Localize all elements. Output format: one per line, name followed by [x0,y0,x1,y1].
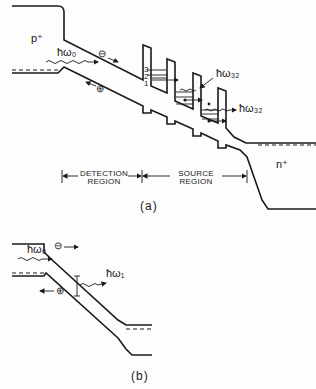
photon-hw32-label: ħω₃₂ [216,68,239,79]
level-1-label: 1 [144,80,149,88]
valence-band-a [12,67,316,209]
photon-hw0-label: ħω₀ [57,47,76,58]
hole-symbol: ⊕ [96,84,104,94]
source-region-label: SOURCE REGION [172,170,220,186]
band-diagram-figure: p⁺ ħω₀ ⊖ ⊕ 3 2 1 ħω₃₂ ħω₃₂ n⁺ DETECTION … [0,0,316,389]
caption-a: (a) [140,200,158,212]
conduction-band-a [12,6,316,143]
caption-b: (b) [131,370,149,382]
electron-arrow-a [108,58,118,62]
valence-band-b [12,273,152,355]
diagram-lines [0,0,316,389]
tunneling-arrows [152,80,226,123]
subband-levels [147,70,218,119]
detection-region-label: DETECTION REGION [80,170,128,186]
electron-symbol-b: ⊖ [54,241,62,251]
photon-hw0-b-label: ħω₀ [27,244,46,255]
electron-symbol: ⊖ [98,49,106,59]
hole-symbol-b: ⊕ [56,286,64,296]
n-plus-label: n⁺ [276,159,288,170]
gap-marker [74,276,80,296]
photon-wave-in-a [46,61,98,64]
photon-wave-32b [205,109,236,111]
photon-wave-out-b [80,283,106,287]
photon-hw32-out-label: ħω₃₂ [239,103,262,114]
p-plus-label: p⁺ [31,33,43,44]
photon-pointer [200,78,213,88]
photon-hw1-label: ħω₁ [106,268,124,279]
photon-wave-in-b [18,258,52,261]
conduction-band-b [12,244,152,325]
